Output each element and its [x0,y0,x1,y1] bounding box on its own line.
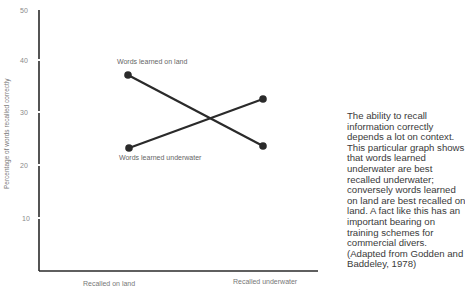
y-tick-label-40: 40 [20,57,28,64]
data-point-underwater-recalled-on-land [125,144,133,152]
y-axis-title: Percentage of words recalled correctly [3,78,11,189]
tick-notch-20 [37,164,41,166]
data-point-underwater-recalled-underwater [259,95,267,103]
y-tick-label-20: 20 [20,162,28,169]
tick-notch-10 [37,217,41,219]
caption-line: The ability to recall [347,111,459,122]
series-line-land [128,75,263,146]
data-point-land-recalled-on-land [124,71,132,79]
y-tick-label-10: 10 [22,215,30,222]
tick-notch-30 [37,111,41,113]
caption-line: Baddeley, 1978) [347,259,459,270]
series-label-land: Words learned on land [117,58,187,65]
series-label-underwater: Words learned underwater [119,154,202,161]
tick-notch-40 [37,59,41,61]
caption-line: underwater are best [347,164,459,175]
y-tick-label-30: 30 [20,109,28,116]
data-point-land-recalled-underwater [259,142,267,150]
caption-text: The ability to recall information correc… [347,111,459,270]
y-tick-label-50: 50 [20,7,28,14]
x-category-label-land: Recalled on land [83,280,135,287]
x-category-label-underwater: Recalled underwater [233,278,298,285]
series-line-underwater [129,99,263,148]
caption-line: important bearing on [347,217,459,228]
